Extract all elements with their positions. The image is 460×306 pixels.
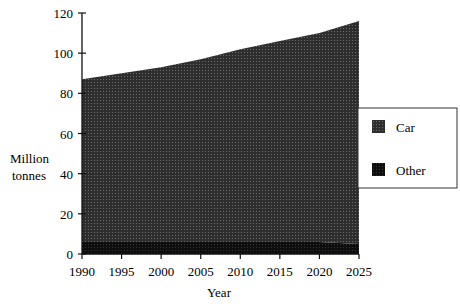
x-tick-label: 2000 [148,264,174,279]
legend-label-other: Other [396,163,426,178]
x-axis-label: Year [207,285,232,300]
y-tick-label: 80 [60,86,73,101]
y-tick-label: 40 [60,167,73,182]
x-tick-label: 1995 [109,264,135,279]
area-other [82,242,359,254]
x-tick-label: 2020 [306,264,332,279]
x-tick-label: 2015 [267,264,293,279]
x-tick-label: 2010 [227,264,253,279]
y-axis-label-line1: Million [10,151,50,166]
y-tick-label: 60 [60,127,73,142]
x-tick-label: 2005 [188,264,214,279]
y-tick-label: 120 [54,6,74,21]
legend-swatch-car [372,120,385,133]
legend-label-car: Car [396,120,415,135]
x-tick-label: 1990 [69,264,95,279]
area-chart: 0204060801001201990199520002005201020152… [0,0,460,306]
y-tick-label: 20 [60,207,73,222]
y-tick-label: 0 [67,247,74,262]
plot-area [82,21,359,254]
y-axis-label-line2: tonnes [12,168,46,183]
area-car [82,21,359,244]
y-tick-label: 100 [54,46,74,61]
legend: Car Other [358,108,457,188]
x-tick-label: 2025 [346,264,372,279]
legend-swatch-other [372,163,385,176]
